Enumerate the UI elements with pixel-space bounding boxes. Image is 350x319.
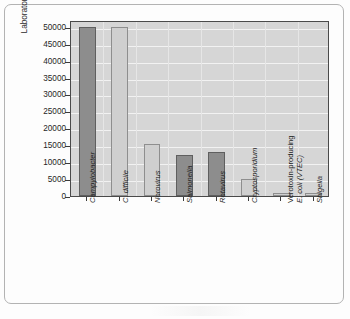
chart-figure: Laboratory reports/year 0500010000150002… (0, 0, 350, 319)
x-axis-tick-label: Norovirus (154, 171, 163, 204)
y-axis-tick-label: 15000 (22, 142, 66, 150)
x-axis-tick-mark (313, 197, 314, 201)
page-smudge (150, 306, 250, 316)
x-axis-tick-mark (280, 197, 281, 201)
x-axis-tick-label: Cryptosporidium (251, 148, 260, 203)
y-axis-tick-label: 0 (22, 193, 66, 201)
y-axis-tick-label: 50000 (22, 24, 66, 32)
y-axis-tick-label: 30000 (22, 91, 66, 99)
x-axis-tick-mark (151, 197, 152, 201)
y-axis-tick-label: 10000 (22, 159, 66, 167)
x-axis-tick-mark (119, 197, 120, 201)
x-axis-tick-label: Campylobacter (89, 152, 98, 203)
x-axis-tick-label: C. difficile (122, 170, 131, 203)
y-axis-tick-label: 25000 (22, 108, 66, 116)
x-axis-tick-mark (248, 197, 249, 201)
x-axis-tick-label: Shigella (316, 176, 325, 203)
y-axis-tick-mark (65, 197, 70, 198)
x-axis-tick-label: Salmonella (186, 165, 195, 203)
y-axis-tick-label: 45000 (22, 41, 66, 49)
y-axis-tick-label: 35000 (22, 75, 66, 83)
x-axis-tick-mark (216, 197, 217, 201)
x-axis-tick-label: Rotavirus (219, 171, 228, 203)
y-axis-tick-label: 5000 (22, 176, 66, 184)
x-axis-tick-label: Verotoxin-producingE. coli (VTEC) (287, 135, 304, 203)
y-axis-tick-label: 40000 (22, 58, 66, 66)
y-axis-tick-label: 20000 (22, 125, 66, 133)
